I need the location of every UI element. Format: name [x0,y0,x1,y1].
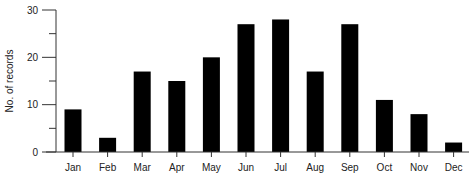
y-tick-label: 0 [32,147,38,158]
x-tick-label: Aug [306,162,324,173]
y-axis: 0102030 [27,5,56,158]
y-tick-label: 10 [27,99,39,110]
bar-mar [134,72,151,152]
bar-aug [307,72,324,152]
x-tick-label: Feb [99,162,117,173]
bar-may [203,57,220,152]
x-tick-label: Sep [341,162,359,173]
y-tick-label: 30 [27,5,39,16]
x-axis: JanFebMarAprMayJunJulAugSepOctNovDec [65,152,463,173]
bar-oct [376,100,393,152]
x-tick-label: May [202,162,221,173]
y-tick-label: 20 [27,52,39,63]
bar-jun [238,24,255,152]
y-axis-label: No. of records [4,50,15,113]
x-tick-label: Jun [238,162,254,173]
bar-jan [65,109,82,152]
x-tick-label: Mar [134,162,152,173]
bar-nov [411,114,428,152]
x-tick-label: Dec [445,162,463,173]
bars [65,19,463,152]
x-tick-label: Nov [410,162,428,173]
bar-jul [272,19,289,152]
bar-dec [445,143,462,152]
x-tick-label: Apr [169,162,185,173]
bar-apr [168,81,185,152]
bar-feb [99,138,116,152]
x-tick-label: Jul [274,162,287,173]
x-tick-label: Jan [65,162,81,173]
bar-chart: No. of records 0102030 JanFebMarAprMayJu… [0,0,473,178]
bar-sep [341,24,358,152]
x-tick-label: Oct [377,162,393,173]
